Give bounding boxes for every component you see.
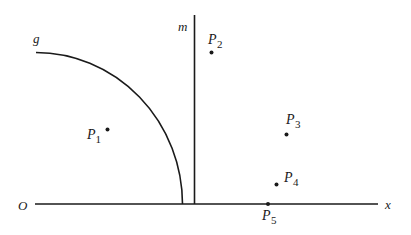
curve-g-label: g — [33, 31, 40, 46]
line-m-label: m — [178, 19, 187, 34]
point-p4-subscript: 4 — [293, 176, 299, 188]
origin-label: O — [18, 198, 28, 213]
curve-g — [36, 53, 183, 205]
point-p2-label: P — [207, 32, 217, 47]
x-axis-label: x — [384, 197, 391, 212]
point-p2-dot — [210, 51, 214, 55]
point-p5-label: P — [261, 208, 271, 223]
point-p5-dot — [266, 202, 270, 206]
point-p4-label: P — [283, 170, 293, 185]
point-p5-subscript: 5 — [271, 214, 277, 226]
point-p3-subscript: 3 — [295, 118, 301, 130]
point-p4-dot — [275, 183, 279, 187]
diagram-svg: O x g m P 1 P 2 P 3 P 4 P 5 — [0, 0, 411, 235]
point-p1-label: P — [86, 127, 96, 142]
point-p1-subscript: 1 — [96, 133, 102, 145]
diagram-canvas: O x g m P 1 P 2 P 3 P 4 P 5 — [0, 0, 411, 235]
point-p3-dot — [285, 133, 289, 137]
point-p1-dot — [106, 128, 110, 132]
point-p2-subscript: 2 — [217, 38, 223, 50]
point-p3-label: P — [285, 112, 295, 127]
